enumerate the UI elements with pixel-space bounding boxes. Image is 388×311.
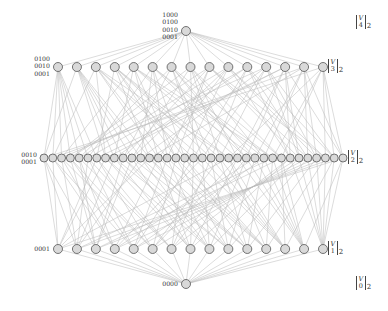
inclusion-edge xyxy=(96,158,326,249)
inclusion-edge xyxy=(106,67,286,158)
inclusion-edge xyxy=(323,67,343,158)
subspace-node xyxy=(319,63,328,72)
rank-subscript: 2 xyxy=(339,66,343,74)
subspace-node xyxy=(128,154,136,162)
inclusion-edge xyxy=(186,249,191,284)
subspace-node xyxy=(146,154,154,162)
subspace-node xyxy=(262,245,271,254)
subspace-node xyxy=(93,154,101,162)
inclusion-edge xyxy=(53,67,58,158)
subspace-node xyxy=(251,154,259,162)
bracket: V3 xyxy=(328,59,338,73)
subspace-node xyxy=(182,280,191,289)
inclusion-edge xyxy=(285,67,343,158)
rank-bottom: 1 xyxy=(331,248,335,255)
inclusion-edge xyxy=(186,31,247,67)
inclusion-edge xyxy=(44,67,58,158)
subspace-node xyxy=(216,154,224,162)
subspace-node xyxy=(154,154,162,162)
subspace-node xyxy=(281,63,290,72)
rank-subscript: 2 xyxy=(367,22,371,30)
subspace-node xyxy=(277,154,285,162)
subspace-node xyxy=(181,154,189,162)
inclusion-edge xyxy=(96,67,106,158)
inclusion-edge xyxy=(53,67,304,158)
subspace-node xyxy=(269,154,277,162)
inclusion-edge xyxy=(53,158,58,249)
inclusion-edge xyxy=(255,158,304,249)
inclusion-edge xyxy=(70,158,133,249)
basis-label-dim-1: 0001 xyxy=(34,245,50,252)
subspace-node xyxy=(304,154,312,162)
gaussian-binomial-label-3: V32 xyxy=(328,58,343,74)
subspace-node xyxy=(163,154,171,162)
subspace-node xyxy=(321,154,329,162)
subspace-node xyxy=(205,245,214,254)
subspace-node xyxy=(66,154,74,162)
subspace-node xyxy=(40,154,48,162)
subspace-lattice-diagram xyxy=(0,0,388,311)
rank-bottom: 2 xyxy=(351,157,355,164)
subspace-node xyxy=(110,154,118,162)
subspace-node xyxy=(313,154,321,162)
inclusion-edge xyxy=(58,67,97,158)
subspace-node xyxy=(102,154,110,162)
inclusion-edge xyxy=(228,67,316,158)
subspace-node xyxy=(243,245,252,254)
subspace-node xyxy=(110,63,119,72)
subspace-node xyxy=(198,154,206,162)
inclusion-edge xyxy=(134,158,264,249)
inclusion-edge xyxy=(106,158,191,249)
subspace-node xyxy=(286,154,294,162)
inclusion-edge xyxy=(114,158,190,249)
subspace-node xyxy=(167,63,176,72)
subspace-node xyxy=(243,63,252,72)
gaussian-binomial-label-4: V42 xyxy=(356,14,371,30)
inclusion-edge xyxy=(53,67,96,158)
subspace-node xyxy=(207,154,215,162)
basis-label-dim-3: 0100 0010 0001 xyxy=(34,55,50,77)
inclusion-edge xyxy=(153,158,220,249)
inclusion-edge xyxy=(237,67,285,158)
basis-label-dim-0: 0000 xyxy=(162,280,178,287)
inclusion-edge xyxy=(44,158,77,249)
inclusion-edge xyxy=(62,67,267,158)
inclusion-edge xyxy=(186,249,285,284)
rank-bottom: 0 xyxy=(359,283,363,290)
subspace-node xyxy=(295,154,303,162)
inclusion-edge xyxy=(323,158,334,249)
subspace-node xyxy=(72,63,81,72)
basis-label-dim-4: 1000 0100 0010 0001 xyxy=(162,11,178,40)
inclusion-edge xyxy=(97,158,172,249)
subspace-node xyxy=(225,154,233,162)
inclusion-edge xyxy=(134,67,255,158)
inclusion-edge xyxy=(186,31,285,67)
inclusion-edge xyxy=(153,158,238,249)
inclusion-edge xyxy=(211,158,285,249)
inclusion-edge xyxy=(79,67,228,158)
subspace-node xyxy=(110,245,119,254)
inclusion-edge xyxy=(44,67,77,158)
inclusion-edge xyxy=(209,67,299,158)
subspace-node xyxy=(58,154,66,162)
subspace-node xyxy=(339,154,347,162)
subspace-node xyxy=(190,154,198,162)
subspace-node xyxy=(186,245,195,254)
subspace-node xyxy=(281,245,290,254)
inclusion-edge xyxy=(247,67,334,158)
subspace-node xyxy=(260,154,268,162)
subspace-node xyxy=(72,245,81,254)
subspace-node xyxy=(148,63,157,72)
inclusion-edge xyxy=(44,158,58,249)
inclusion-edge xyxy=(191,158,194,249)
subspace-node xyxy=(242,154,250,162)
inclusion-edge xyxy=(323,67,334,158)
subspace-node xyxy=(137,154,145,162)
bracket: V2 xyxy=(348,150,358,164)
subspace-node xyxy=(129,245,138,254)
rank-subscript: 2 xyxy=(359,157,363,165)
subspace-node xyxy=(49,154,57,162)
inclusion-edge xyxy=(153,67,273,158)
inclusion-edge xyxy=(132,67,191,158)
inclusion-edge xyxy=(115,249,186,284)
